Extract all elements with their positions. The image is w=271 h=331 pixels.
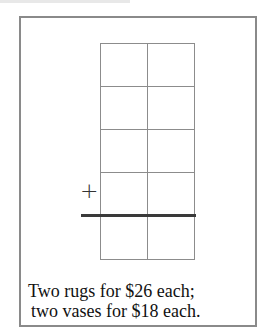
cropped-text-fragment: [0, 0, 130, 3]
caption-line-2: two vases for $18 each.: [22, 301, 254, 321]
grid-line: [194, 43, 195, 260]
grid-line: [147, 43, 148, 260]
plus-sign: +: [80, 180, 98, 202]
caption-line-1: Two rugs for $26 each;: [22, 281, 254, 301]
addition-grid: [100, 43, 195, 260]
sum-line: [81, 214, 196, 217]
word-problem-caption: Two rugs for $26 each; two vases for $18…: [22, 281, 254, 321]
grid-line: [100, 43, 101, 260]
